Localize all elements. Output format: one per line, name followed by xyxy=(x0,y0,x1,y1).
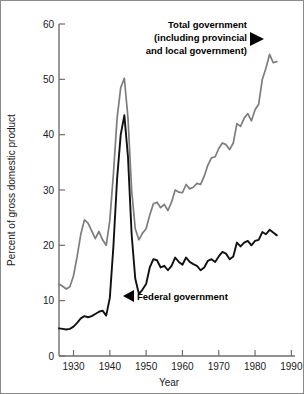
axis-titles: Year Percent of gross domestic product xyxy=(6,114,180,388)
y-tick-label: 10 xyxy=(43,295,55,306)
y-tick-label: 60 xyxy=(43,19,55,30)
x-tick-label: 1980 xyxy=(244,361,267,372)
annotation-total-government-line3: and local government) xyxy=(146,45,247,56)
y-tick-label: 40 xyxy=(43,129,55,140)
annotation-total-government-line2: (including provincial xyxy=(154,32,247,43)
x-tick-label: 1960 xyxy=(171,361,194,372)
annotations-group: Total government (including provincial a… xyxy=(123,19,264,302)
x-tick-label: 1990 xyxy=(280,361,303,372)
chart-plot-area: 0102030405060 19301940195019601970198019… xyxy=(1,1,304,394)
data-series-group xyxy=(59,54,277,329)
annotation-total-government-arrow-icon xyxy=(250,32,264,46)
y-tick-label: 50 xyxy=(43,74,55,85)
annotation-federal-government-label: Federal government xyxy=(137,291,229,302)
y-tick-label: 20 xyxy=(43,240,55,251)
annotation-total-government-line1: Total government xyxy=(168,19,248,30)
x-tick-label: 1940 xyxy=(99,361,122,372)
x-axis-ticks: 1930194019501960197019801990 xyxy=(62,350,303,372)
annotation-federal-government-arrow-icon xyxy=(123,290,134,302)
y-tick-label: 30 xyxy=(43,185,55,196)
chart-figure: 0102030405060 19301940195019601970198019… xyxy=(0,0,304,394)
y-axis-ticks: 0102030405060 xyxy=(43,19,65,362)
x-axis-title: Year xyxy=(159,377,180,388)
x-tick-label: 1930 xyxy=(62,361,85,372)
series-line-total-government xyxy=(59,54,277,289)
x-tick-label: 1950 xyxy=(135,361,158,372)
x-tick-label: 1970 xyxy=(208,361,231,372)
y-axis-title: Percent of gross domestic product xyxy=(6,114,17,266)
y-tick-label: 0 xyxy=(48,351,54,362)
